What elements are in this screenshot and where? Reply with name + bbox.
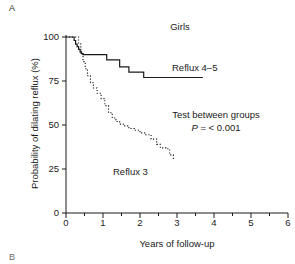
figure-root: A B Girls Probability of dilating reflux…: [0, 0, 295, 264]
y-axis-ticks: [62, 37, 66, 213]
statistics-annotation: Test between groups P = < 0.001: [146, 108, 286, 134]
p-value-rest: = < 0.001: [198, 122, 241, 133]
series-label-reflux-3: Reflux 3: [113, 166, 148, 177]
data-series-group: [66, 37, 203, 160]
test-between-groups-text: Test between groups: [146, 108, 286, 121]
p-value-text: P = < 0.001: [146, 121, 286, 134]
series-label-reflux-4-5: Reflux 4–5: [172, 62, 217, 73]
series-line-reflux-3: [66, 37, 173, 160]
x-axis-ticks: [66, 213, 288, 218]
